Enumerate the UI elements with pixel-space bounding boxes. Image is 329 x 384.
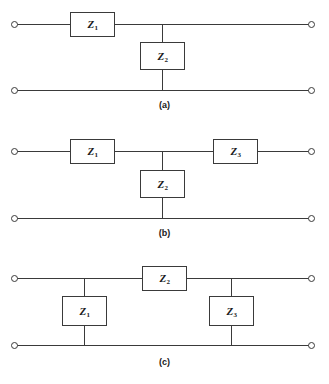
terminal-bottom-right-a[interactable] xyxy=(308,87,315,94)
wire-top-left-c xyxy=(17,278,85,279)
wire-shunt-lower-a xyxy=(162,70,163,91)
wire-shunt-left-lower-c xyxy=(84,326,85,345)
caption-a: (a) xyxy=(0,100,329,110)
wire-top-mid-left-c xyxy=(85,278,142,279)
wire-top-right-c xyxy=(232,278,309,279)
circuit-figure-b: Z1 Z3 Z2 (b) xyxy=(0,128,329,250)
wire-top-mid-right-c xyxy=(187,278,232,279)
terminal-top-right-a[interactable] xyxy=(308,21,315,28)
wire-top-mid-a xyxy=(115,24,163,25)
caption-c: (c) xyxy=(0,357,329,367)
impedance-box-z1-b: Z1 xyxy=(70,139,115,164)
wire-top-right-b xyxy=(258,151,309,152)
wire-bottom-b xyxy=(17,218,309,219)
impedance-label-z1-c: Z1 xyxy=(79,306,89,317)
wire-shunt-upper-a xyxy=(162,24,163,42)
terminal-top-left-c[interactable] xyxy=(11,275,18,282)
impedance-box-z1-a: Z1 xyxy=(70,12,115,37)
impedance-box-z2-b: Z2 xyxy=(140,170,185,198)
impedance-box-z3-c: Z3 xyxy=(209,296,254,326)
wire-top-right-a xyxy=(163,24,309,25)
circuit-figure-a: Z1 Z2 (a) xyxy=(0,0,329,120)
terminal-bottom-left-b[interactable] xyxy=(11,215,18,222)
wire-bottom-c xyxy=(17,345,309,346)
terminal-bottom-right-c[interactable] xyxy=(308,342,315,349)
terminal-top-left-a[interactable] xyxy=(11,21,18,28)
terminal-top-left-b[interactable] xyxy=(11,148,18,155)
impedance-box-z2-c: Z2 xyxy=(142,266,187,291)
impedance-label-z1-a: Z1 xyxy=(87,19,97,30)
wire-top-left-a xyxy=(17,24,70,25)
terminal-bottom-right-b[interactable] xyxy=(308,215,315,222)
circuit-figure-c: Z2 Z1 Z3 (c) xyxy=(0,256,329,384)
impedance-label-z2-c: Z2 xyxy=(159,273,169,284)
impedance-box-z2-a: Z2 xyxy=(140,42,185,70)
wire-shunt-right-lower-c xyxy=(231,326,232,345)
terminal-top-right-c[interactable] xyxy=(308,275,315,282)
wire-shunt-right-upper-c xyxy=(231,278,232,296)
impedance-label-z2-a: Z2 xyxy=(157,51,167,62)
wire-top-left-b xyxy=(17,151,70,152)
terminal-bottom-left-c[interactable] xyxy=(11,342,18,349)
caption-b: (b) xyxy=(0,228,329,238)
wire-bottom-a xyxy=(17,90,309,91)
wire-shunt-lower-b xyxy=(162,198,163,219)
impedance-label-z1-b: Z1 xyxy=(87,146,97,157)
terminal-top-right-b[interactable] xyxy=(308,148,315,155)
impedance-box-z3-b: Z3 xyxy=(213,139,258,164)
wire-shunt-upper-b xyxy=(162,151,163,170)
impedance-label-z3-b: Z3 xyxy=(230,146,240,157)
impedance-label-z2-b: Z2 xyxy=(157,179,167,190)
terminal-bottom-left-a[interactable] xyxy=(11,87,18,94)
wire-top-mid-left-b xyxy=(115,151,163,152)
impedance-label-z3-c: Z3 xyxy=(226,306,236,317)
wire-shunt-left-upper-c xyxy=(84,278,85,296)
wire-top-mid-right-b xyxy=(163,151,213,152)
impedance-box-z1-c: Z1 xyxy=(62,296,107,326)
